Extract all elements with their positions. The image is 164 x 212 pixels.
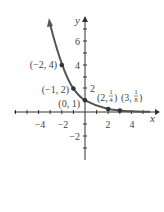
svg-text:1: 1 xyxy=(134,88,138,96)
point-label-2-quarter: (2, 1 4 ) xyxy=(97,88,117,104)
y-tick-label: 6 xyxy=(75,36,80,47)
x-tick-label: 2 xyxy=(106,119,111,130)
y-axis-arrow xyxy=(82,16,88,22)
y-axis-label: y xyxy=(74,14,80,26)
point-label: (0, 1) xyxy=(58,98,80,110)
point-label: (−1, 2) xyxy=(42,84,69,96)
svg-text:4: 4 xyxy=(109,96,113,104)
svg-text:): ) xyxy=(139,92,142,104)
y-tick-label: 2 xyxy=(90,83,95,94)
data-point xyxy=(106,107,111,112)
svg-text:(3,: (3, xyxy=(121,92,132,104)
data-point xyxy=(60,63,65,68)
svg-text:): ) xyxy=(114,92,117,104)
data-point xyxy=(83,98,88,103)
point-label-3-eighth: (3, 1 8 ) xyxy=(121,88,142,104)
data-point xyxy=(71,86,76,91)
x-tick-label: −2 xyxy=(58,119,69,130)
svg-text:(2,: (2, xyxy=(97,92,108,104)
svg-text:1: 1 xyxy=(109,88,113,96)
y-tick-label: −2 xyxy=(69,131,80,142)
point-label: (−2, 4) xyxy=(30,59,57,71)
curve-arrow xyxy=(47,18,53,27)
x-axis-arrow xyxy=(155,109,160,115)
x-tick-label: −4 xyxy=(35,119,46,130)
data-point xyxy=(118,108,123,113)
x-tick-label: 4 xyxy=(130,119,135,130)
exponential-graph: −4 −2 2 4 6 4 2 −2 y x (−2, 4) (−1, 2) (… xyxy=(0,0,164,212)
y-tick-label: 4 xyxy=(75,60,80,71)
x-axis-label: x xyxy=(149,112,155,124)
svg-text:8: 8 xyxy=(134,96,138,104)
